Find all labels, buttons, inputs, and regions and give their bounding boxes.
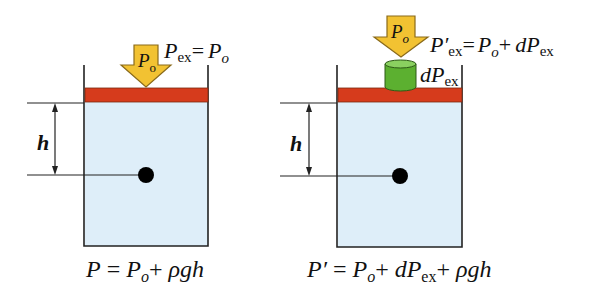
arrowhead-down-icon [52,166,58,175]
hydrostatic-pressure-diagram: h Po Pex=Po P = Po+ ρgh dPex [0,0,593,305]
left-panel: h Po Pex=Po P = Po+ ρgh [27,38,230,285]
left-height-label: h [37,130,49,155]
right-formula: P′ = Po+ dPex+ ρgh [306,256,492,285]
left-formula: P = Po+ ρgh [85,256,204,285]
right-pressure-label: P′ex=Po+dPex [429,32,554,60]
left-piston [85,88,208,102]
arrowhead-down-icon [306,167,312,176]
weight-cylinder-icon [385,60,416,91]
right-point-dot [392,168,408,184]
left-pressure-label: Pex=Po [163,38,230,66]
left-point-dot [138,167,154,183]
right-panel: dPex h Po P′ex=Po+dPex P′ = Po+ dPex+ ρg… [280,16,554,285]
right-height-label: h [290,131,302,156]
weight-label: dPex [420,62,459,89]
arrowhead-up-icon [52,103,58,112]
arrowhead-up-icon [306,103,312,112]
